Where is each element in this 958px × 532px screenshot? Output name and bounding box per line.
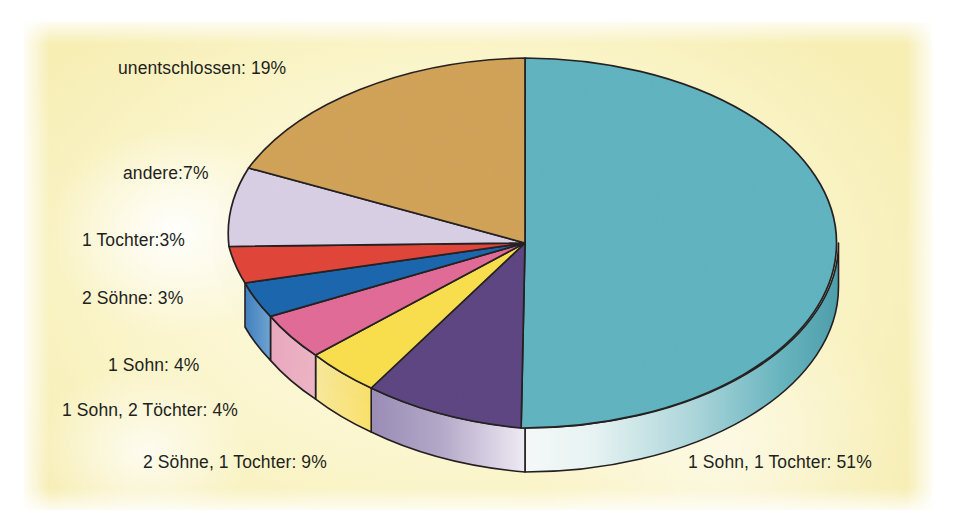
label-2-soehne: 2 Söhne: 3% <box>82 288 183 309</box>
label-1-sohn-2-toechter: 1 Sohn, 2 Töchter: 4% <box>62 400 238 421</box>
chart-canvas: unentschlossen: 19% andere:7% 1 Tochter:… <box>0 0 958 532</box>
label-unentschlossen: unentschlossen: 19% <box>118 58 286 79</box>
label-1-tochter: 1 Tochter:3% <box>82 230 185 251</box>
label-1-sohn: 1 Sohn: 4% <box>108 355 199 376</box>
halftone-grain-overlay <box>212 58 838 428</box>
label-1-sohn-1-tochter: 1 Sohn, 1 Tochter: 51% <box>688 452 872 473</box>
label-2-soehne-1-tochter: 2 Söhne, 1 Tochter: 9% <box>143 452 327 473</box>
label-andere: andere:7% <box>123 163 209 184</box>
